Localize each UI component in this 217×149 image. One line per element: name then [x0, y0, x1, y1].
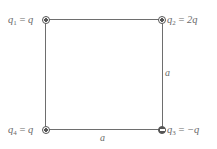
positive-charge-icon-q4 [42, 126, 50, 134]
equals-sign: = [176, 124, 187, 135]
plus-vertical-stroke [45, 18, 46, 22]
square-top-side [45, 19, 162, 20]
charge-value: 2q [187, 14, 198, 25]
negative-charge-icon-q3 [158, 126, 166, 134]
equals-sign: = [176, 14, 187, 25]
plus-vertical-stroke [45, 128, 46, 132]
positive-charge-icon-q2 [158, 16, 166, 24]
side-length-label-bottom: a [100, 133, 105, 143]
charge-label-q4: q4 = q [8, 124, 33, 139]
charge-square-diagram: q1 = q q2 = 2q q3 = −q q4 = q a a [0, 0, 217, 149]
positive-charge-icon-q1 [42, 16, 50, 24]
side-length-label-right: a [165, 68, 170, 78]
charge-value: q [28, 14, 33, 25]
charge-label-q2: q2 = 2q [167, 14, 197, 29]
charge-label-q1: q1 = q [8, 14, 33, 29]
square-left-side [45, 19, 46, 129]
plus-vertical-stroke [161, 18, 162, 22]
minus-stroke [160, 129, 165, 130]
equals-sign: = [17, 124, 28, 135]
square-right-side [162, 19, 163, 129]
square-bottom-side [45, 129, 162, 130]
equals-sign: = [17, 14, 28, 25]
charge-value: −q [187, 124, 199, 135]
charge-value: q [28, 124, 33, 135]
charge-label-q3: q3 = −q [167, 124, 199, 139]
